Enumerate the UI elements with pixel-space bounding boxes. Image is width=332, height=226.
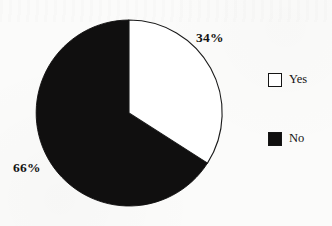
legend-item-no[interactable]: No <box>268 131 330 146</box>
legend-label-yes: Yes <box>289 73 307 86</box>
legend-swatch-yes-icon <box>268 73 282 87</box>
pie-data-label-no: 66% <box>13 160 41 176</box>
legend-swatch-no-icon <box>268 132 282 146</box>
legend-item-yes[interactable]: Yes <box>268 72 330 87</box>
pie-chart-figure: 34% 66% Yes No <box>0 0 332 226</box>
chart-legend: Yes No <box>268 72 330 190</box>
pie-data-label-yes: 34% <box>196 30 224 46</box>
legend-label-no: No <box>289 132 304 145</box>
